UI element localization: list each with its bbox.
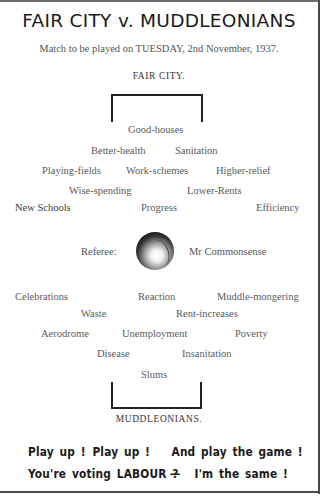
page-title: FAIR CITY v. MUDDLEONIANS xyxy=(0,10,318,31)
player-slums: Slums xyxy=(141,369,167,380)
player-rent-increases: Rent-increases xyxy=(176,308,238,319)
player-playing-fields: Playing-fields xyxy=(42,165,101,176)
slogan-dash: — xyxy=(170,467,181,481)
goal-bottom-icon xyxy=(111,382,202,409)
slogan-play-the-game: And play the game ! xyxy=(172,445,303,459)
player-new-schools: New Schools xyxy=(15,202,71,213)
team-fair-city-label: FAIR CITY. xyxy=(0,71,318,81)
player-higher-relief: Higher-relief xyxy=(216,165,271,176)
player-lower-rents: Lower-Rents xyxy=(187,185,242,196)
player-celebrations: Celebrations xyxy=(15,291,68,302)
slogan-im-the-same: I'm the same ! xyxy=(195,467,289,481)
player-reaction: Reaction xyxy=(138,291,175,302)
player-aerodrome: Aerodrome xyxy=(41,328,89,339)
goal-top-icon xyxy=(111,94,203,122)
page-border-top xyxy=(0,0,320,2)
referee-label: Referee: xyxy=(81,246,117,257)
slogan-voting-labour: You're voting LABOUR ? xyxy=(28,467,179,481)
slogan-play-up-1: Play up ! xyxy=(28,445,86,459)
slogan-play-up-2: Play up ! xyxy=(92,445,150,459)
player-unemployment: Unemployment xyxy=(122,328,187,339)
player-work-schemes: Work-schemes xyxy=(126,165,188,176)
player-muddle-mongering: Muddle-mongering xyxy=(217,291,299,302)
page-border-right xyxy=(318,0,320,494)
player-sanitation: Sanitation xyxy=(175,145,218,156)
page-border-bottom xyxy=(0,491,320,493)
player-waste: Waste xyxy=(81,308,106,319)
football-seam xyxy=(148,238,172,268)
player-wise-spending: Wise-spending xyxy=(69,185,132,196)
football-icon xyxy=(136,232,174,270)
player-efficiency: Efficiency xyxy=(256,202,300,213)
player-poverty: Poverty xyxy=(235,328,268,339)
match-date: Match to be played on TUESDAY, 2nd Novem… xyxy=(0,43,318,54)
player-insanitation: Insanitation xyxy=(182,348,232,359)
player-better-health: Better-health xyxy=(91,145,146,156)
player-disease: Disease xyxy=(97,348,130,359)
player-progress: Progress xyxy=(141,202,177,213)
referee-name: Mr Commonsense xyxy=(189,246,266,257)
team-muddleonians-label: MUDDLEONIANS. xyxy=(0,414,318,424)
player-good-houses: Good-houses xyxy=(128,124,183,135)
